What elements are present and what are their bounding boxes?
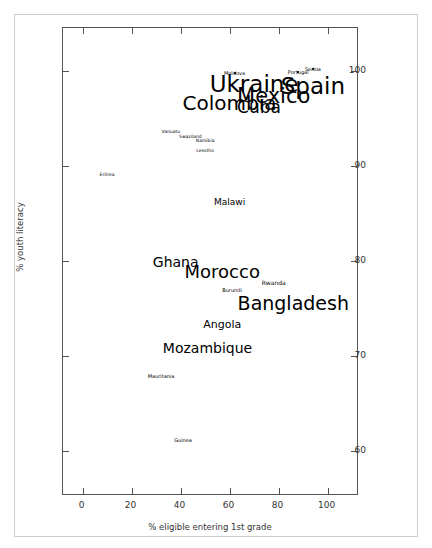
- figure-canvas: VanuatuSwazilandNamibiaLesothoEritreaMol…: [0, 0, 432, 548]
- country-label: Morocco: [185, 263, 260, 281]
- x-tick-label: 0: [79, 501, 85, 510]
- x-tick-label: 100: [318, 501, 335, 510]
- x-axis-tick: [230, 28, 231, 34]
- y-tick-label: 80: [355, 256, 366, 265]
- country-label: Eritrea: [100, 173, 115, 178]
- x-axis-label: % eligible entering 1st grade: [62, 522, 358, 532]
- country-label: Malawi: [214, 198, 245, 207]
- country-label: Mozambique: [163, 341, 252, 355]
- y-tick-label: 100: [349, 65, 366, 74]
- x-axis-tick: [279, 488, 280, 494]
- y-axis-label: % youth literacy: [15, 187, 25, 287]
- country-label: Lesotho: [196, 148, 214, 153]
- x-axis-tick: [328, 488, 329, 494]
- scatter-plot-area: VanuatuSwazilandNamibiaLesothoEritreaMol…: [62, 27, 358, 495]
- x-tick-label: 60: [223, 501, 234, 510]
- country-label: Guinea: [174, 437, 192, 442]
- y-axis-tick: [63, 261, 69, 262]
- y-axis-tick: [63, 71, 69, 72]
- x-axis-tick: [132, 28, 133, 34]
- x-axis-tick: [328, 28, 329, 34]
- x-axis-tick: [181, 488, 182, 494]
- x-axis-tick: [83, 488, 84, 494]
- country-label: Mauritania: [148, 374, 175, 379]
- y-axis-tick: [63, 451, 69, 452]
- country-label: Vanuatu: [162, 129, 181, 134]
- y-tick-label: 70: [355, 351, 366, 360]
- x-axis-tick: [181, 28, 182, 34]
- y-axis-tick: [63, 356, 69, 357]
- x-tick-label: 80: [272, 501, 283, 510]
- country-label: Angola: [203, 318, 241, 329]
- x-axis-tick: [279, 28, 280, 34]
- y-tick-label: 60: [355, 446, 366, 455]
- country-label: Bangladesh: [238, 293, 349, 312]
- y-tick-label: 90: [355, 160, 366, 169]
- x-tick-label: 20: [125, 501, 136, 510]
- x-axis-tick: [230, 488, 231, 494]
- country-label: Spain: [281, 75, 345, 98]
- country-label: Rwanda: [262, 280, 286, 286]
- x-axis-tick: [83, 28, 84, 34]
- x-tick-label: 40: [174, 501, 185, 510]
- country-label: Serbia: [305, 66, 321, 71]
- y-axis-tick: [63, 166, 69, 167]
- x-axis-tick: [132, 488, 133, 494]
- country-label: Namibia: [196, 139, 215, 144]
